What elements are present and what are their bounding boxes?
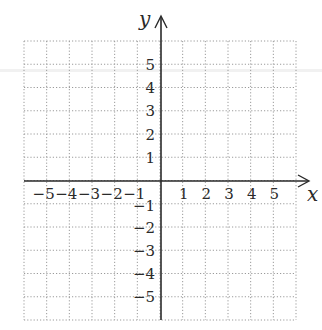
y-tick-label: −4 — [133, 265, 155, 283]
x-tick-label: −4 — [55, 185, 77, 203]
x-tick-label: 4 — [247, 185, 257, 203]
y-tick-label: 1 — [145, 149, 155, 167]
y-tick-label: 3 — [145, 102, 155, 120]
x-tick-label: −5 — [33, 185, 55, 203]
y-tick-label: 4 — [145, 79, 155, 97]
y-tick-label: 2 — [145, 126, 155, 144]
x-tick-label: 3 — [224, 185, 234, 203]
x-tick-label: 5 — [270, 185, 280, 203]
y-tick-label: −1 — [133, 197, 155, 215]
axes — [24, 16, 309, 320]
y-tick-label: −3 — [133, 242, 155, 260]
x-tick-label: −3 — [78, 185, 100, 203]
x-tick-label: 2 — [202, 185, 212, 203]
x-tick-label: −2 — [101, 185, 123, 203]
x-tick-labels: −5−4−3−2−112345 — [33, 185, 280, 203]
x-axis-label: x — [307, 182, 318, 206]
y-tick-label: −5 — [133, 288, 155, 306]
coordinate-plane: x y −5−4−3−2−112345 54321−1−2−3−4−5 — [0, 0, 322, 330]
y-axis-label: y — [138, 7, 151, 31]
x-tick-label: 1 — [179, 185, 189, 203]
y-tick-label: −2 — [133, 219, 155, 237]
y-tick-label: 5 — [145, 56, 155, 74]
